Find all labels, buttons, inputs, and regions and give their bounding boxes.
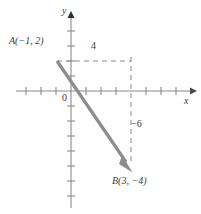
y-axis-label: y bbox=[62, 6, 66, 16]
figure-canvas bbox=[0, 0, 201, 214]
point-a-label: A(−1, 2) bbox=[9, 36, 44, 46]
x-axis-label: x bbox=[184, 96, 188, 106]
origin-label: 0 bbox=[62, 93, 67, 103]
x-axis-arrowhead bbox=[190, 88, 197, 95]
run-length-label: 4 bbox=[91, 41, 96, 51]
point-b-label: B(3, −4) bbox=[112, 176, 147, 186]
rise-length-label: −6 bbox=[131, 119, 142, 129]
vector-ab-arrowhead bbox=[119, 155, 133, 172]
y-axis-arrowhead bbox=[68, 11, 75, 18]
coordinate-plane-figure: A(−1, 2) B(3, −4) 4 −6 0 x y bbox=[0, 0, 201, 214]
vector-ab-shaft bbox=[57, 61, 126, 162]
